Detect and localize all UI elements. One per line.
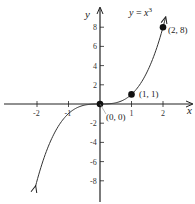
- equation-label: y = x3: [128, 6, 153, 18]
- y-tick-label: -8: [90, 177, 97, 186]
- y-tick-label: -4: [90, 138, 97, 147]
- equation-exponent: 3: [149, 6, 153, 14]
- y-tick-label: 6: [93, 42, 97, 51]
- y-tick-label: 4: [93, 62, 97, 71]
- point-label-1-1: (1, 1): [139, 89, 159, 99]
- y-axis-label: y: [84, 8, 90, 20]
- x-tick-label: 1: [130, 109, 134, 118]
- x-axis-label: x: [186, 104, 192, 116]
- point-label-2-8: (2, 8): [168, 25, 188, 35]
- y-tick-label: -2: [90, 119, 97, 128]
- y-tick-label: 8: [93, 23, 97, 32]
- data-point-marker: [128, 91, 135, 98]
- cubic-function-graph: -2-112-8-6-4-22468 y x y = x3 (0, 0) (1,…: [0, 0, 195, 204]
- point-label-origin: (0, 0): [106, 112, 126, 122]
- y-tick-label: -6: [90, 158, 97, 167]
- y-tick-label: 2: [93, 81, 97, 90]
- plot-area: -2-112-8-6-4-22468 y x y = x3 (0, 0) (1,…: [0, 0, 195, 204]
- equation-eq: =: [133, 7, 144, 18]
- x-tick-label: -2: [33, 109, 40, 118]
- data-point-marker: [160, 24, 167, 31]
- x-tick-label: 2: [161, 109, 165, 118]
